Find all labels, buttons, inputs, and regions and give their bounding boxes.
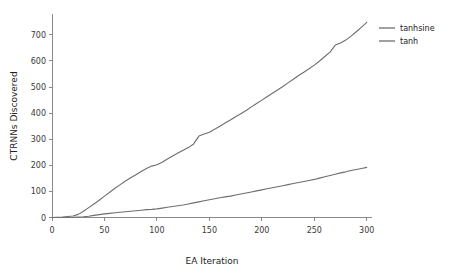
x-tick-label: 100: [149, 226, 164, 235]
y-tick-label: 200: [31, 161, 46, 170]
legend-label-tanh: tanh: [400, 37, 418, 46]
x-tick-label: 250: [307, 226, 322, 235]
series-line-tanh: [52, 167, 367, 217]
y-tick-label: 600: [31, 57, 46, 66]
chart-legend: tanhsinetanh: [379, 24, 435, 46]
y-tick-label: 400: [31, 109, 46, 118]
legend-label-tanhsine: tanhsine: [400, 24, 435, 33]
x-tick-label: 150: [202, 226, 217, 235]
chart-container: 0100200300400500600700 05010015020025030…: [0, 0, 454, 279]
line-chart: 0100200300400500600700 05010015020025030…: [0, 0, 454, 279]
y-tick-label: 700: [31, 31, 46, 40]
y-axis-ticks: 0100200300400500600700: [31, 31, 52, 223]
y-axis-title: CTRNNs Discovered: [9, 71, 19, 160]
series-line-tanhsine: [52, 22, 367, 217]
y-tick-label: 0: [41, 214, 46, 223]
x-tick-label: 200: [254, 226, 269, 235]
y-tick-label: 100: [31, 187, 46, 196]
x-axis-ticks: 050100150200250300: [49, 218, 374, 235]
x-tick-label: 300: [359, 226, 374, 235]
x-tick-label: 50: [99, 226, 109, 235]
series-group: [52, 22, 367, 217]
x-tick-label: 0: [49, 226, 54, 235]
x-axis-title: EA Iteration: [186, 256, 239, 266]
y-tick-label: 500: [31, 83, 46, 92]
y-tick-label: 300: [31, 135, 46, 144]
